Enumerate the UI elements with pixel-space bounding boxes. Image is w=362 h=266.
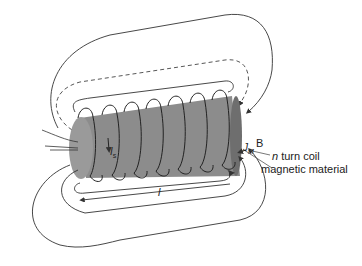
magnetic-material-label: magnetic material [261, 163, 348, 175]
jm-label: JM [243, 142, 254, 155]
b-field-label: B [256, 137, 263, 149]
coil-label: n turn coil [272, 150, 320, 162]
solenoid-diagram [0, 0, 362, 266]
length-label: l [158, 186, 160, 198]
current-label: Is [110, 146, 116, 159]
